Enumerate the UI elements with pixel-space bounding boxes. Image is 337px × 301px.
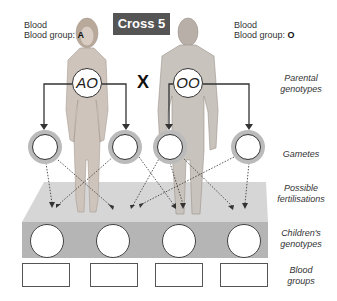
gamete-slot-3[interactable] [153,130,187,164]
parent-female-blood-group-label: Blood Blood group: A [24,20,84,40]
blood-group-prefix: Blood group: [234,30,288,40]
gamete-slot-1[interactable] [28,130,62,164]
cross-symbol: X [137,72,149,93]
row-label-parental-genotypes: Parental genotypes [266,73,336,95]
row-label-possible-fertilisations: Possible fertilisations [266,183,336,205]
child-blood-group-box-2[interactable] [90,263,138,287]
gamete-slot-2[interactable] [108,130,142,164]
child-blood-group-box-3[interactable] [155,263,203,287]
blood-group-prefix: Blood group: [24,30,78,40]
row-label-blood-groups: Blood groups [266,265,336,287]
parent-male-blood-group-label: Blood Blood group: O [234,20,295,40]
child-genotype-slot-2[interactable] [96,224,130,258]
child-blood-group-box-4[interactable] [220,263,268,287]
row-label-gametes: Gametes [266,149,336,160]
child-genotype-slot-1[interactable] [30,224,64,258]
parent-genotype-female: AO [72,68,102,98]
cross-title: Cross 5 [113,13,170,35]
child-genotype-slot-4[interactable] [227,224,261,258]
child-blood-group-box-1[interactable] [22,263,70,287]
gamete-slot-4[interactable] [231,130,265,164]
blood-group-value: O [288,30,295,40]
blood-group-value: A [78,30,85,40]
child-genotype-slot-3[interactable] [162,224,196,258]
parent-genotype-male: OO [173,68,203,98]
row-label-childrens-genotypes: Children's genotypes [266,228,336,250]
